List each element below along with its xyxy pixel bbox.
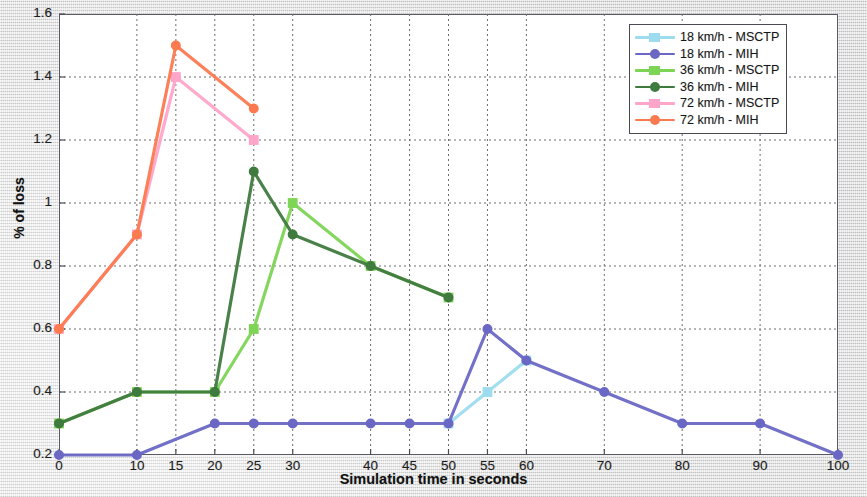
legend-entry: 36 km/h - MSCTP bbox=[635, 62, 779, 79]
legend-label: 36 km/h - MSCTP bbox=[680, 63, 779, 77]
legend-label: 72 km/h - MSCTP bbox=[680, 96, 779, 110]
legend-swatch-icon bbox=[635, 80, 675, 94]
legend-swatch-icon bbox=[635, 63, 675, 77]
series-line bbox=[55, 167, 453, 428]
legend-entry: 72 km/h - MSCTP bbox=[635, 95, 779, 112]
chart-legend: 18 km/h - MSCTP18 km/h - MIH36 km/h - MS… bbox=[629, 24, 787, 134]
y-tick-label: 0.4 bbox=[6, 383, 52, 398]
legend-label: 18 km/h - MIH bbox=[680, 47, 759, 61]
legend-entry: 18 km/h - MIH bbox=[635, 46, 779, 63]
y-tick-label: 1.4 bbox=[6, 68, 52, 83]
legend-swatch-icon bbox=[635, 96, 675, 110]
legend-entry: 36 km/h - MIH bbox=[635, 79, 779, 96]
legend-swatch-icon bbox=[635, 47, 675, 61]
y-tick-label: 0.6 bbox=[6, 320, 52, 335]
series-line bbox=[444, 356, 530, 427]
legend-label: 36 km/h - MIH bbox=[680, 80, 759, 94]
legend-label: 18 km/h - MSCTP bbox=[680, 30, 779, 44]
legend-entry: 18 km/h - MSCTP bbox=[635, 29, 779, 46]
y-tick-label: 1.6 bbox=[6, 5, 52, 20]
x-axis-label: Simulation time in seconds bbox=[0, 471, 867, 487]
legend-entry: 72 km/h - MIH bbox=[635, 112, 779, 129]
series-line bbox=[55, 41, 258, 333]
y-axis-label: % of loss bbox=[11, 153, 27, 263]
legend-label: 72 km/h - MIH bbox=[680, 113, 759, 127]
legend-swatch-icon bbox=[635, 30, 675, 44]
y-tick-label: 1.2 bbox=[6, 131, 52, 146]
series-line bbox=[55, 199, 453, 428]
legend-swatch-icon bbox=[635, 113, 675, 127]
